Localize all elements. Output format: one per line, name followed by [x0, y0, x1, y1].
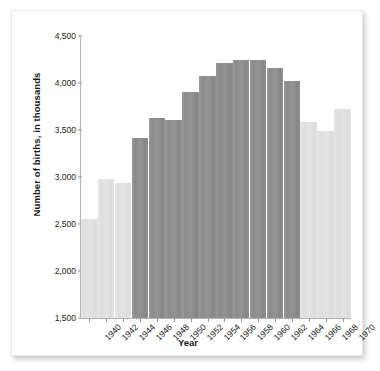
bar-1952 — [182, 92, 199, 318]
x-axis-title: Year — [12, 337, 364, 348]
y-axis-tick-labels: 1,5002,0002,5003,0003,5004,0004,500 — [36, 11, 76, 357]
y-tick-label: 2,000 — [55, 266, 76, 276]
y-tick-label: 4,500 — [55, 31, 76, 41]
bar-series — [81, 36, 351, 318]
bar-1968 — [317, 131, 334, 318]
chart-card: Number of births, in thousands 1,5002,00… — [11, 10, 363, 356]
y-tick-label: 3,500 — [55, 125, 76, 135]
bar-1950 — [165, 120, 182, 318]
bar-1964 — [284, 81, 301, 318]
bar-1956 — [216, 63, 233, 318]
bar-1954 — [199, 76, 216, 318]
bar-1966 — [300, 122, 317, 318]
bar-1946 — [132, 138, 149, 318]
bar-1942 — [98, 179, 115, 318]
y-tick-label: 3,000 — [55, 172, 76, 182]
bar-1948 — [149, 118, 166, 318]
bar-1944 — [115, 183, 132, 318]
bar-1940 — [81, 219, 98, 318]
bar-1958 — [233, 60, 250, 319]
plot-area: Number of births, in thousands 1,5002,00… — [12, 11, 364, 357]
y-tick-label: 2,500 — [55, 219, 76, 229]
bar-1962 — [267, 68, 284, 318]
y-tick-label: 4,000 — [55, 78, 76, 88]
bar-1960 — [250, 60, 267, 319]
bar-1970 — [334, 109, 351, 318]
y-tick-label: 1,500 — [55, 313, 76, 323]
